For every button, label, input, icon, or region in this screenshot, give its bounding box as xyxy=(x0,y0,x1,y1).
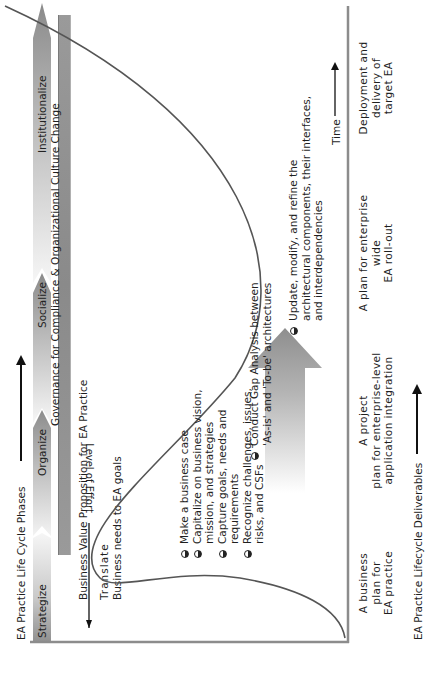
half-circle-bullet-icon xyxy=(251,452,259,460)
level-of-effort-arrow-icon xyxy=(86,620,92,628)
half-circle-bullet-icon xyxy=(290,327,298,335)
gap-analysis-activity: Conduct Gap Analysis between 'As-is' and… xyxy=(248,282,273,460)
half-circle-bullet-icon xyxy=(181,550,189,558)
deliverables-label: EA Practice Lifecycle Deliverables xyxy=(412,463,425,640)
deliverable-rollout-plan: A plan for enterprise wide EA roll-out xyxy=(357,178,395,328)
deliverables-arrow-icon xyxy=(410,381,424,456)
update-activity: Update, modify, and refine the architect… xyxy=(287,96,325,335)
time-arrow-icon xyxy=(328,58,342,118)
activity-item: Make a business case xyxy=(178,388,191,558)
half-circle-bullet-icon xyxy=(244,550,252,558)
x-axis-label: Time xyxy=(330,119,343,145)
half-circle-bullet-icon xyxy=(194,550,202,558)
activity-item: Capitalize on business vision, xyxy=(191,388,204,558)
deliverable-project-plan: A project plan for enterprise-level appl… xyxy=(357,338,395,503)
activity-item: Capture goals, needs and xyxy=(216,388,229,558)
y-axis-label: Level of Effort xyxy=(83,443,96,513)
deliverable-deployment: Deployment and delivery of target EA xyxy=(357,28,395,148)
half-circle-bullet-icon xyxy=(219,550,227,558)
ea-lifecycle-diagram: EA Practice Life Cycle Phases xyxy=(0,0,438,678)
deliverable-business-plan: A business plan for EA practice xyxy=(357,543,395,623)
